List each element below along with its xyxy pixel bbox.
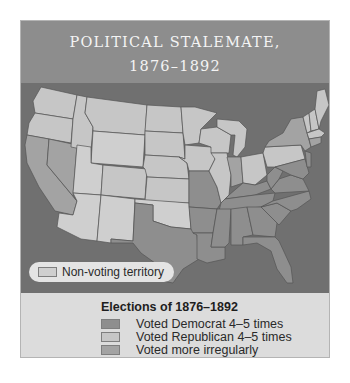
state-montana bbox=[85, 97, 147, 135]
state-ohio bbox=[241, 153, 267, 185]
legend-label: Voted Republican 4–5 times bbox=[136, 330, 292, 344]
legend-label: Voted Democrat 4–5 times bbox=[136, 317, 283, 331]
nonvoting-label: Non-voting territory bbox=[62, 265, 164, 279]
legend: Elections of 1876–1892 Voted Democrat 4–… bbox=[21, 293, 329, 357]
nonvoting-swatch bbox=[38, 267, 57, 277]
legend-label: Voted more irregularly bbox=[136, 343, 258, 357]
state-colorado bbox=[101, 165, 147, 199]
legend-item-republican: Voted Republican 4–5 times bbox=[101, 330, 292, 344]
state-south-dakota bbox=[145, 131, 185, 159]
legend-item-democrat: Voted Democrat 4–5 times bbox=[101, 317, 283, 331]
democrat-swatch bbox=[101, 319, 120, 329]
state-florida bbox=[243, 237, 293, 283]
map-title: POLITICAL STALEMATE, bbox=[21, 34, 329, 50]
state-new-mexico bbox=[97, 195, 135, 243]
state-kansas bbox=[145, 177, 189, 203]
us-map: Non-voting territory bbox=[21, 83, 329, 293]
state-wyoming bbox=[91, 131, 145, 167]
irregular-swatch bbox=[101, 345, 120, 355]
nonvoting-territory-key: Non-voting territory bbox=[29, 262, 174, 282]
state-arkansas bbox=[189, 207, 217, 233]
title-band: POLITICAL STALEMATE, 1876–1892 bbox=[21, 21, 329, 83]
legend-title: Elections of 1876–1892 bbox=[101, 300, 238, 314]
republican-swatch bbox=[101, 332, 120, 342]
map-figure: POLITICAL STALEMATE, 1876–1892 bbox=[20, 20, 330, 358]
state-connecticut bbox=[309, 137, 321, 147]
state-north-dakota bbox=[145, 105, 183, 133]
legend-item-irregular: Voted more irregularly bbox=[101, 343, 258, 357]
map-date-range: 1876–1892 bbox=[21, 58, 329, 74]
